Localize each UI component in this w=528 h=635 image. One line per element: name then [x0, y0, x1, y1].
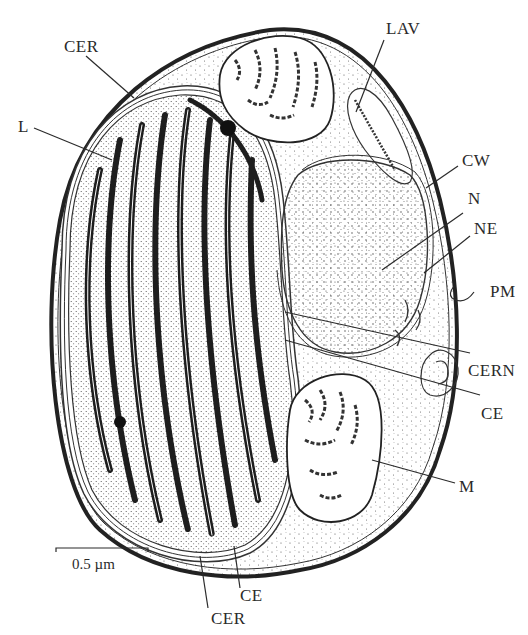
label-ce-right: CE — [481, 405, 504, 422]
label-cw: CW — [462, 152, 490, 169]
mitochondrion-bottom — [287, 374, 382, 522]
cell-diagram: CER L LAV CW N NE PM CERN CE M CE CER 0.… — [0, 0, 528, 635]
label-lav: LAV — [386, 20, 420, 37]
label-ce-bottom: CE — [240, 587, 263, 604]
label-n: N — [468, 190, 481, 207]
label-m: M — [459, 478, 475, 495]
label-ne: NE — [474, 220, 498, 237]
cell-illustration — [0, 0, 528, 635]
label-cer-bottom: CER — [211, 610, 246, 627]
scale-bar-label: 0.5 µm — [72, 556, 115, 573]
label-l: L — [18, 118, 29, 135]
label-cern: CERN — [468, 362, 515, 379]
label-cer-top: CER — [64, 38, 99, 55]
label-pm: PM — [490, 283, 516, 300]
